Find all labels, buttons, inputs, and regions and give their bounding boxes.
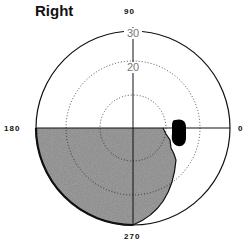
polar-plot: 30 20	[0, 0, 248, 245]
radial-label-30: 30	[127, 27, 139, 39]
blind-spot	[172, 119, 186, 146]
radial-label-20: 20	[127, 61, 139, 73]
